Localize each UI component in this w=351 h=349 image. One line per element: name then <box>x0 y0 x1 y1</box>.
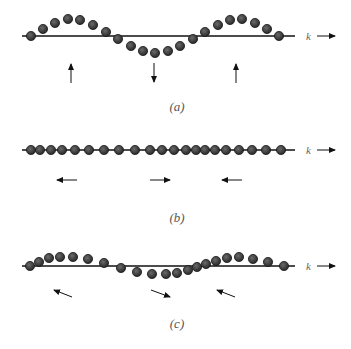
particle <box>63 14 72 23</box>
particle <box>34 257 43 266</box>
panel-mixed: k(c) <box>22 252 335 331</box>
wave-vector-label: k <box>306 260 312 272</box>
particle <box>200 145 209 154</box>
particle <box>175 41 184 50</box>
particle <box>99 145 108 154</box>
particle <box>88 20 97 29</box>
particle <box>70 145 79 154</box>
particle <box>161 269 170 278</box>
panel-label: (c) <box>170 316 184 331</box>
particle <box>225 15 234 24</box>
particle <box>35 145 44 154</box>
particle <box>262 24 271 33</box>
particle <box>211 256 220 265</box>
particle <box>101 27 110 36</box>
particle <box>46 145 55 154</box>
particle <box>147 269 156 278</box>
particle <box>113 34 122 43</box>
particle <box>84 145 93 154</box>
particle <box>68 252 77 261</box>
panel-longitudinal: k(b) <box>22 144 335 225</box>
particle <box>169 145 178 154</box>
particle <box>75 15 84 24</box>
particle <box>99 258 108 267</box>
particle <box>183 265 192 274</box>
displacement-arrow-icon <box>151 290 170 297</box>
particle <box>145 145 154 154</box>
particle <box>188 34 197 43</box>
particle <box>279 261 288 270</box>
particle <box>181 145 190 154</box>
particle <box>200 27 209 36</box>
wave-vector-label: k <box>306 30 312 42</box>
particle <box>234 145 243 154</box>
particle <box>114 145 123 154</box>
particle <box>26 31 35 40</box>
particle <box>234 252 243 261</box>
wave-modes-diagram: k(a)k(b)k(c) <box>0 0 351 349</box>
particle <box>38 24 47 33</box>
particle <box>237 14 246 23</box>
particle <box>213 20 222 29</box>
particle <box>201 259 210 268</box>
panel-label: (a) <box>169 99 184 114</box>
particle <box>126 41 135 50</box>
displacement-arrow-icon <box>217 290 235 297</box>
particle <box>276 145 285 154</box>
panels-group: k(a)k(b)k(c) <box>22 14 335 331</box>
particle <box>83 254 92 263</box>
particle <box>263 257 272 266</box>
particle <box>191 145 200 154</box>
particle <box>138 46 147 55</box>
particle <box>210 145 219 154</box>
particle <box>25 261 34 270</box>
panel-transverse: k(a) <box>22 14 335 114</box>
panel-label: (b) <box>169 210 184 225</box>
particle <box>157 145 166 154</box>
wave-vector-label: k <box>306 144 312 156</box>
particle <box>222 253 231 262</box>
particle <box>44 253 53 262</box>
particle <box>250 18 259 27</box>
particle <box>55 252 64 261</box>
particle <box>192 262 201 271</box>
particle <box>132 267 141 276</box>
particle <box>221 145 230 154</box>
particle <box>172 268 181 277</box>
particle <box>261 145 270 154</box>
particle <box>57 145 66 154</box>
particle <box>50 18 59 27</box>
particle <box>26 145 35 154</box>
particle <box>247 145 256 154</box>
particle <box>274 31 283 40</box>
particle <box>248 254 257 263</box>
displacement-arrow-icon <box>54 290 72 297</box>
particle <box>130 145 139 154</box>
particle <box>116 263 125 272</box>
particle <box>163 46 172 55</box>
particle <box>150 48 159 57</box>
